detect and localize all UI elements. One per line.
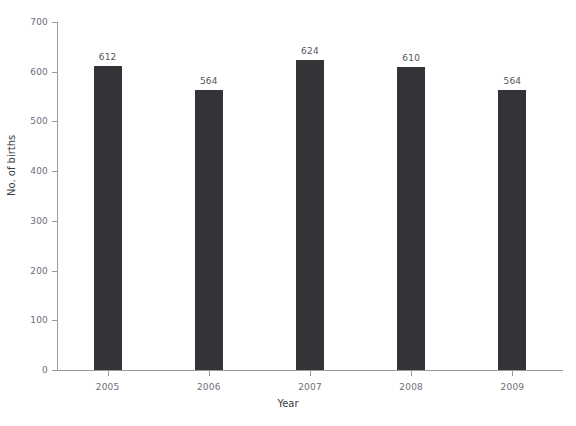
y-axis-tick-label: 500 [30,116,48,126]
y-axis-tick: 700 [52,22,57,23]
bar-value-label: 564 [504,76,522,86]
y-axis-tick-label: 100 [30,315,48,325]
y-axis-tick: 200 [52,271,57,272]
y-axis-tick-label: 400 [30,166,48,176]
bar [498,90,526,370]
x-axis-tick-label: 2009 [501,382,525,392]
bar-value-label: 624 [301,46,319,56]
x-axis-tick-label: 2007 [298,382,322,392]
bar-value-label: 612 [99,52,117,62]
y-axis-tick-label: 0 [42,365,48,375]
x-axis-tick [108,371,109,376]
y-axis-tick-label: 300 [30,216,48,226]
x-axis-tick [411,371,412,376]
y-axis-tick: 600 [52,72,57,73]
y-axis-tick: 500 [52,121,57,122]
bar-value-label: 564 [200,76,218,86]
plot-area: 0100200300400500600700612200556420066242… [57,22,563,370]
x-axis-tick-label: 2005 [96,382,120,392]
y-axis-tick: 0 [52,370,57,371]
x-axis-tick [310,371,311,376]
x-axis-tick-label: 2008 [399,382,423,392]
y-axis-line [57,22,58,370]
y-axis-tick: 300 [52,221,57,222]
y-axis-tick: 100 [52,320,57,321]
x-axis-tick-label: 2006 [197,382,221,392]
bar [195,90,223,370]
y-axis-tick-label: 200 [30,266,48,276]
y-axis-title: No. of births [6,135,17,196]
y-axis-tick-label: 600 [30,67,48,77]
bar [296,60,324,370]
bar-chart: No. of births 01002003004005006007006122… [0,0,576,426]
y-axis-tick: 400 [52,171,57,172]
chart-title [30,0,550,1]
bar [397,67,425,370]
x-axis-title: Year [0,398,576,409]
bar-value-label: 610 [402,53,420,63]
x-axis-tick [209,371,210,376]
bar [94,66,122,370]
y-axis-tick-label: 700 [30,17,48,27]
x-axis-tick [512,371,513,376]
